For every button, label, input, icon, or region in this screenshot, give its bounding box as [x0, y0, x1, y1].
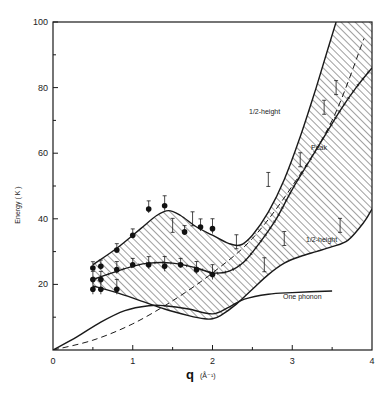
- data-point: [194, 267, 200, 273]
- y-tick-label: 100: [33, 17, 48, 27]
- data-point: [114, 247, 120, 253]
- data-point: [162, 203, 168, 209]
- y-tick-label: 80: [38, 83, 48, 93]
- data-point: [178, 262, 184, 268]
- x-axis-unit: (Å⁻¹): [200, 371, 216, 380]
- x-tick-label: 2: [210, 356, 215, 366]
- data-point: [130, 232, 136, 238]
- x-tick-label: 0: [50, 356, 55, 366]
- y-tick-label: 20: [38, 279, 48, 289]
- data-point: [210, 226, 216, 232]
- data-point: [210, 272, 216, 278]
- data-point: [114, 267, 120, 273]
- plot-area: [53, 22, 372, 350]
- data-point: [90, 287, 96, 293]
- annotation-one-phonon: One phonon: [283, 293, 322, 301]
- x-axis-label: q: [186, 367, 194, 382]
- annotation-peak: Peak: [311, 144, 327, 151]
- x-tick-label: 4: [369, 356, 374, 366]
- data-point: [162, 264, 168, 270]
- energy-dispersion-chart: 2040608010001234 Energy ( K ) q (Å⁻¹) 1/…: [0, 0, 390, 397]
- y-axis-label: Energy ( K ): [14, 186, 22, 223]
- data-point: [90, 265, 96, 271]
- data-point: [182, 229, 188, 235]
- y-tick-label: 60: [38, 148, 48, 158]
- data-point: [98, 264, 104, 270]
- y-tick-label: 40: [38, 214, 48, 224]
- data-point: [98, 287, 104, 293]
- data-point: [114, 287, 120, 293]
- x-tick-label: 3: [290, 356, 295, 366]
- data-point: [198, 224, 204, 230]
- data-point: [146, 206, 152, 212]
- x-tick-label: 1: [130, 356, 135, 366]
- hatched-linewidth-band: [93, 22, 372, 319]
- annotation-upper-half-height: 1/2-height: [249, 108, 280, 116]
- data-point: [130, 262, 136, 268]
- data-point: [146, 262, 152, 268]
- annotation-lower-half-height: 1/2-height: [306, 236, 337, 244]
